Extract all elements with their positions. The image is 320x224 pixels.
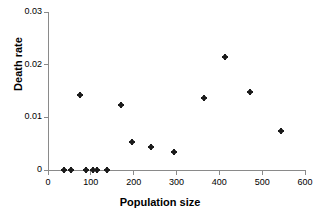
- x-tick: [262, 171, 263, 175]
- data-point: [149, 145, 153, 149]
- data-point: [95, 168, 99, 172]
- x-tick-label: 400: [199, 178, 239, 187]
- y-tick-label: 0.02: [24, 60, 42, 69]
- data-point: [84, 168, 88, 172]
- data-point: [172, 150, 176, 154]
- x-tick-label: 300: [157, 178, 197, 187]
- data-point: [105, 168, 109, 172]
- y-tick-label: 0: [37, 165, 42, 174]
- data-point: [279, 129, 283, 133]
- x-tick-label: 0: [28, 178, 68, 187]
- y-axis-title: Death rate: [12, 24, 24, 104]
- data-point: [69, 168, 73, 172]
- x-tick: [176, 171, 177, 175]
- x-tick: [48, 171, 49, 175]
- y-tick-label: 0.03: [24, 7, 42, 16]
- plot-area: [48, 12, 305, 170]
- x-tick: [133, 171, 134, 175]
- x-tick-label: 600: [285, 178, 320, 187]
- x-tick-label: 500: [242, 178, 282, 187]
- x-tick-label: 200: [114, 178, 154, 187]
- x-tick-label: 100: [71, 178, 111, 187]
- data-point: [223, 55, 227, 59]
- data-point: [119, 103, 123, 107]
- x-tick: [305, 171, 306, 175]
- data-point: [248, 90, 252, 94]
- y-tick-label: 0.01: [24, 112, 42, 121]
- x-tick: [219, 171, 220, 175]
- scatter-chart-figure: 00.010.020.03 0100200300400500600 Death …: [0, 0, 320, 224]
- data-point: [202, 96, 206, 100]
- data-point: [130, 140, 134, 144]
- x-axis-title: Population size: [0, 196, 320, 208]
- data-point: [62, 168, 66, 172]
- data-point: [78, 93, 82, 97]
